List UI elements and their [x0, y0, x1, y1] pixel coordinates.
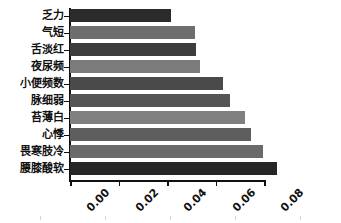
bar — [70, 145, 263, 158]
category-label: 腰膝酸软 — [0, 162, 64, 175]
bar-fill — [70, 162, 277, 175]
x-axis-tick — [119, 180, 121, 186]
bar-fill — [70, 60, 200, 73]
x-axis-tick-label: 0.08 — [278, 186, 306, 214]
category-label: 畏寒肢冷 — [0, 145, 64, 158]
y-axis-tick — [64, 16, 69, 17]
y-axis-tick — [64, 169, 69, 170]
bar-fill — [70, 43, 196, 56]
bar-fill — [70, 128, 251, 141]
y-axis-tick — [64, 84, 69, 85]
bar-fill — [70, 94, 230, 107]
x-axis-tick — [216, 180, 218, 186]
bar — [70, 43, 196, 56]
x-axis-tick-label: 0.04 — [181, 186, 209, 214]
category-label: 苔薄白 — [0, 111, 64, 124]
artifact-tick — [235, 216, 236, 220]
x-axis-tick-label: 0.06 — [229, 186, 257, 214]
cropped-bottom-artifact — [0, 214, 341, 223]
x-axis-tick — [167, 180, 169, 186]
x-axis-tick-label: 0.02 — [132, 186, 160, 214]
category-label: 夜尿频 — [0, 60, 64, 73]
bar-fill — [70, 111, 245, 124]
bar-fill — [70, 9, 171, 22]
bar-fill — [70, 77, 223, 90]
bar — [70, 111, 245, 124]
category-label: 小便频数 — [0, 77, 64, 90]
bar — [70, 128, 251, 141]
bar — [70, 94, 230, 107]
bar — [70, 60, 200, 73]
y-axis-tick — [64, 67, 69, 68]
category-label: 脉细弱 — [0, 94, 64, 107]
y-axis-tick — [64, 101, 69, 102]
bar-fill — [70, 26, 195, 39]
bar — [70, 77, 223, 90]
x-axis-tick — [264, 180, 266, 186]
bar-fill — [70, 145, 263, 158]
bars-group — [70, 9, 264, 179]
x-axis-tick-label: 0.00 — [84, 186, 112, 214]
bar — [70, 162, 277, 175]
artifact-tick — [105, 216, 106, 220]
y-axis-tick — [64, 152, 69, 153]
x-axis-tick — [70, 180, 72, 186]
bar — [70, 9, 171, 22]
y-axis-tick — [64, 118, 69, 119]
category-label: 气短 — [0, 26, 64, 39]
artifact-tick — [300, 216, 301, 220]
category-label: 心悸 — [0, 128, 64, 141]
horizontal-bar-chart: 乏力气短舌淡红夜尿频小便频数脉细弱苔薄白心悸畏寒肢冷腰膝酸软 0.000.020… — [0, 0, 341, 223]
y-axis-tick — [64, 33, 69, 34]
artifact-tick — [40, 216, 41, 220]
category-label: 乏力 — [0, 9, 64, 22]
y-axis-tick — [64, 135, 69, 136]
category-label: 舌淡红 — [0, 43, 64, 56]
y-axis-tick — [64, 50, 69, 51]
artifact-tick — [170, 216, 171, 220]
bar — [70, 26, 195, 39]
